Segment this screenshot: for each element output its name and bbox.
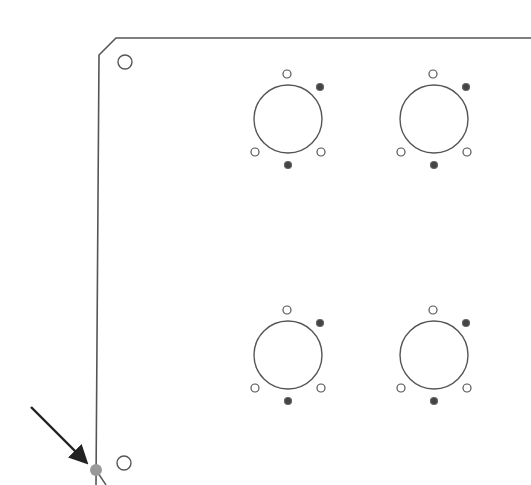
connector-bottom-left — [251, 306, 325, 405]
connector-cutout — [400, 85, 468, 153]
screw-hole — [397, 148, 405, 156]
screw-hole — [317, 384, 325, 392]
filled-hole — [317, 320, 324, 327]
mounting-hole — [118, 55, 132, 69]
filled-hole — [431, 162, 438, 169]
arrow-icon — [31, 407, 85, 461]
connector-top-left — [251, 70, 325, 169]
screw-hole — [283, 70, 291, 78]
screw-hole — [283, 306, 291, 314]
panel-drawing — [0, 0, 531, 485]
filled-hole — [431, 398, 438, 405]
connector-cutout — [254, 321, 322, 389]
filled-hole — [317, 84, 324, 91]
screw-hole — [251, 384, 259, 392]
screw-hole — [429, 70, 437, 78]
filled-hole — [463, 320, 470, 327]
mounting-hole — [117, 456, 131, 470]
connector-top-right — [397, 70, 471, 169]
filled-hole — [285, 162, 292, 169]
screw-hole — [463, 384, 471, 392]
connector-cutout — [254, 85, 322, 153]
screw-hole — [429, 306, 437, 314]
filled-hole — [285, 398, 292, 405]
pointer-arrow — [31, 407, 106, 485]
filled-hole — [463, 84, 470, 91]
screw-hole — [317, 148, 325, 156]
screw-hole — [463, 148, 471, 156]
screw-hole — [397, 384, 405, 392]
screw-hole — [251, 148, 259, 156]
connector-cutout — [400, 321, 468, 389]
origin-marker — [90, 464, 102, 476]
connector-bottom-right — [397, 306, 471, 405]
connector-groups — [251, 70, 471, 405]
